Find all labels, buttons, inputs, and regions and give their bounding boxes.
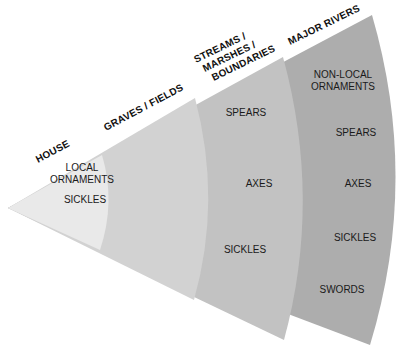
item-spears-rivers: SPEARS <box>336 127 377 138</box>
zone-label-house: HOUSE <box>34 138 72 165</box>
zone-fan-diagram: HOUSE GRAVES / FIELDS STREAMS / MARSHES … <box>0 0 418 360</box>
item-non-local-ornaments: NON-LOCAL <box>314 69 373 80</box>
svg-text:HOUSE: HOUSE <box>34 138 72 165</box>
item-axes-rivers: AXES <box>345 178 372 189</box>
item-sickles-house: SICKLES <box>64 194 107 205</box>
item-sickles-streams: SICKLES <box>224 244 267 255</box>
item-local-ornaments-line2: ORNAMENTS <box>50 174 114 185</box>
item-swords-rivers: SWORDS <box>320 284 365 295</box>
item-non-local-ornaments-line2: ORNAMENTS <box>311 81 375 92</box>
item-axes-streams: AXES <box>246 178 273 189</box>
item-spears-streams: SPEARS <box>226 107 267 118</box>
item-sickles-rivers: SICKLES <box>334 232 377 243</box>
item-local-ornaments: LOCAL <box>66 162 99 173</box>
